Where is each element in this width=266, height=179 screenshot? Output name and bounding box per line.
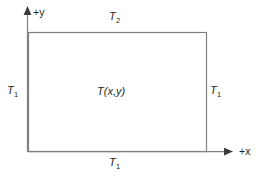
x-axis-arrowhead <box>224 148 233 156</box>
boundary-label-bottom: T1 <box>109 157 120 168</box>
boundary-label-top: T2 <box>109 11 120 22</box>
boundary-label-bottom-symbol: T <box>109 156 116 168</box>
boundary-label-right-symbol: T <box>210 84 217 96</box>
boundary-label-right-subscript: 1 <box>217 90 221 99</box>
y-axis-arrowhead <box>24 6 32 15</box>
boundary-label-top-subscript: 2 <box>116 16 120 25</box>
boundary-label-top-symbol: T <box>109 10 116 22</box>
interior-field-label-text: T(x,y) <box>97 85 125 97</box>
boundary-label-right: T1 <box>210 85 221 96</box>
y-axis-label-text: +y <box>33 6 44 18</box>
boundary-label-left-subscript: 1 <box>14 90 18 99</box>
boundary-label-bottom-subscript: 1 <box>116 162 120 171</box>
y-axis-label: +y <box>33 7 44 18</box>
figure-canvas: +y +x T2 T1 T1 T1 T(x,y) <box>0 0 266 179</box>
x-axis-label-text: +x <box>239 145 250 157</box>
figure-graphics <box>0 0 266 179</box>
x-axis-label: +x <box>239 146 250 157</box>
interior-field-label: T(x,y) <box>97 86 125 97</box>
boundary-label-left: T1 <box>7 85 18 96</box>
boundary-label-left-symbol: T <box>7 84 14 96</box>
